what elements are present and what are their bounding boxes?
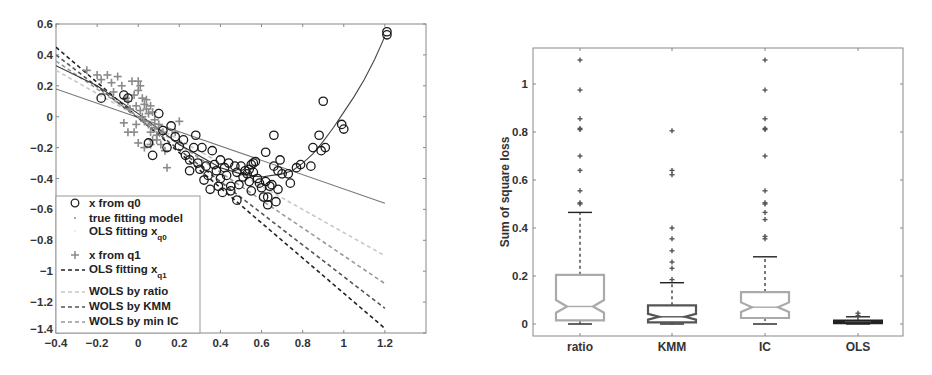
category-label-ols: OLS	[846, 340, 871, 354]
legend-solid-line-icon	[74, 230, 75, 231]
category-label-kmm: KMM	[658, 340, 687, 354]
y-tick-label: 1	[522, 78, 529, 90]
x-tick-label: −0.4	[45, 337, 68, 349]
legend-label: x from q0	[89, 197, 141, 209]
figure: −0.4−0.200.20.40.60.811.2 0.60.40.20−0.2…	[0, 0, 932, 375]
category-label-ic: IC	[759, 340, 771, 354]
y-tick-label: 0.4	[512, 222, 529, 234]
category-label-ratio: ratio	[567, 340, 593, 354]
legend: x from q0true fitting modelOLS fitting x…	[56, 196, 200, 333]
left-scatter-chart: −0.4−0.200.20.40.60.811.2 0.60.40.20−0.2…	[30, 18, 426, 349]
x-tick-label: 0.4	[212, 337, 229, 349]
notched-box	[741, 292, 789, 318]
y-tick-label: 0.6	[37, 18, 53, 30]
y-tick-label: 0.8	[512, 126, 529, 138]
right-boxplot-chart: 00.20.40.60.81 ratioKMMICOLS Sum of squa…	[498, 48, 903, 354]
y-tick-label: 0.2	[37, 80, 53, 92]
y-tick-label: −1.2	[30, 296, 53, 308]
y-tick-label: −0.6	[30, 203, 53, 215]
y-tick-label: −1.4	[30, 323, 53, 335]
x-tick-label: 0	[135, 337, 141, 349]
legend-dot-icon	[74, 217, 76, 219]
x-tick-label: 0.2	[171, 337, 187, 349]
notched-box	[556, 275, 604, 321]
y-tick-label: −0.4	[30, 173, 53, 185]
y-tick-label: −0.8	[30, 234, 53, 246]
legend-label: WOLS by min IC	[89, 315, 178, 327]
legend-label: x from q1	[89, 249, 141, 261]
y-tick-label: 0.4	[37, 49, 54, 61]
y-tick-label: 0	[47, 111, 53, 123]
x-tick-label: 1	[341, 337, 348, 349]
x-tick-label: 0.8	[295, 337, 312, 349]
y-tick-label: −1	[40, 265, 54, 277]
notched-box	[648, 305, 696, 322]
x-tick-label: 0.6	[254, 337, 270, 349]
y-tick-label: 0.6	[512, 174, 528, 186]
y-tick-label: −0.2	[30, 142, 53, 154]
legend-label: true fitting model	[89, 212, 183, 224]
y-tick-label: 0	[522, 318, 528, 330]
legend-label: WOLS by ratio	[89, 285, 168, 297]
legend-label: WOLS by KMM	[89, 300, 171, 312]
y-axis-label: Sum of square loss	[498, 136, 512, 247]
y-tick-label: 0.2	[512, 270, 528, 282]
x-tick-label: 1.2	[377, 337, 393, 349]
x-tick-label: −0.2	[86, 337, 109, 349]
